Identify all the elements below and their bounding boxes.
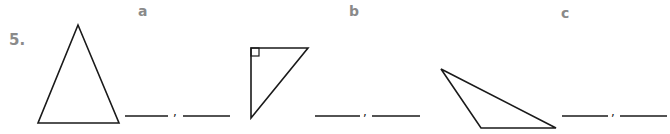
right-angle-marker bbox=[251, 48, 259, 56]
triangle-a bbox=[38, 25, 119, 123]
figures bbox=[0, 0, 670, 134]
separator-b: , bbox=[363, 105, 367, 119]
triangle-c bbox=[441, 69, 556, 128]
separator-c: , bbox=[611, 105, 615, 119]
triangle-b bbox=[251, 48, 308, 118]
separator-a: , bbox=[173, 105, 177, 119]
